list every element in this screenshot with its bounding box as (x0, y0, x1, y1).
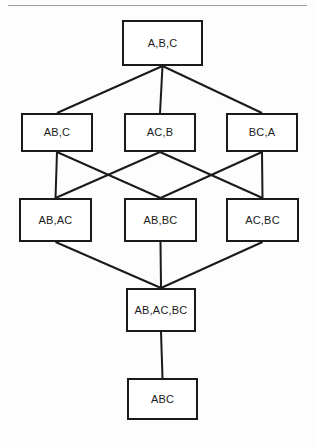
lattice-edge (161, 332, 163, 378)
node-label: AB,BC (143, 215, 177, 226)
lattice-node-bc-a[interactable]: BC,A (226, 113, 298, 152)
lattice-node-abc[interactable]: ABC (127, 378, 198, 420)
lattice-edge (56, 242, 162, 288)
lattice-node-ab-ac[interactable]: AB,AC (19, 198, 92, 242)
diagram-page: A,B,C AB,C AC,B BC,A AB,AC AB,BC AC,BC A… (0, 0, 315, 448)
lattice-node-ab-c[interactable]: AB,C (21, 113, 93, 152)
lattice-node-ab-bc[interactable]: AB,BC (124, 198, 197, 242)
node-label: BC,A (249, 127, 275, 138)
lattice-node-ac-bc[interactable]: AC,BC (226, 198, 299, 242)
node-label: AC,B (147, 127, 173, 138)
node-label: AC,BC (245, 215, 280, 226)
lattice-edge (161, 242, 263, 288)
lattice-node-ab-ac-bc[interactable]: AB,AC,BC (126, 288, 196, 332)
lattice-edge (57, 66, 163, 113)
node-label: AB,AC (38, 215, 72, 226)
lattice-node-ac-b[interactable]: AC,B (124, 113, 196, 152)
node-label: AB,C (44, 127, 70, 138)
lattice-edge (262, 152, 263, 198)
lattice-node-abc-split[interactable]: A,B,C (122, 20, 203, 66)
lattice-edge (56, 152, 58, 198)
node-label: AB,AC,BC (135, 305, 188, 316)
lattice-edge (160, 66, 163, 113)
node-label: ABC (151, 394, 174, 405)
node-label: A,B,C (148, 38, 178, 49)
lattice-edge (161, 242, 162, 288)
lattice-edge (163, 66, 263, 113)
